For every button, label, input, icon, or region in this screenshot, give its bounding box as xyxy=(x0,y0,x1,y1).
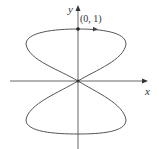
curve-bottom-loop xyxy=(26,81,126,134)
x-axis-label: x xyxy=(145,86,150,97)
point-label: (0, 1) xyxy=(80,14,102,24)
point-0-1-marker xyxy=(76,27,80,31)
origin-marker xyxy=(76,79,79,82)
y-axis-arrow-icon xyxy=(76,5,81,11)
x-axis-arrow-icon xyxy=(142,79,148,84)
direction-arrow-icon xyxy=(93,27,98,32)
y-axis-label: y xyxy=(68,4,73,15)
curve-top-loop xyxy=(26,29,126,81)
